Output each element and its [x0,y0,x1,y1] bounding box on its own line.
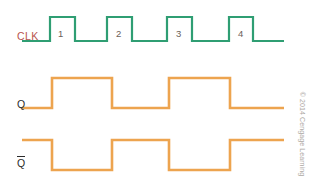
cycle-number-2: 2 [116,29,121,39]
cycle-number-1: 1 [58,29,63,39]
cycle-number-3: 3 [176,29,181,39]
q-waveform [22,78,284,108]
waveform-canvas [0,0,309,188]
timing-diagram-figure: CLK Q Q 1234 © 2014 Cengage Learning [0,0,309,188]
qbar-overbar-text: Q [17,156,25,169]
q-signal-label: Q [17,99,25,110]
clk-signal-label: CLK [17,31,39,42]
cycle-number-4: 4 [238,29,243,39]
qbar-waveform [22,140,284,170]
qbar-signal-label: Q [17,156,25,169]
credit-line: © 2014 Cengage Learning [295,84,309,184]
credit-text: © 2014 Cengage Learning [299,92,306,177]
